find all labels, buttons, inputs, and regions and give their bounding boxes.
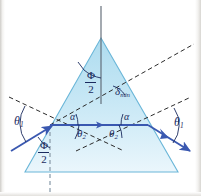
figure-canvas: θ1 θ1 α α θ2 θ2 δmin Φ 2 Φ 2 bbox=[0, 0, 201, 196]
page-edge-left bbox=[0, 0, 5, 196]
theta1-right-label: θ1 bbox=[174, 116, 183, 130]
prism-diagram-svg bbox=[0, 0, 201, 196]
theta1-left-label: θ1 bbox=[14, 115, 23, 129]
alpha-right-label: α bbox=[124, 112, 129, 122]
phi-top-tick bbox=[78, 62, 84, 70]
delta-min-label: δmin bbox=[115, 86, 130, 99]
phi-over-2-bottom-label: Φ 2 bbox=[38, 140, 50, 165]
page-edge-right bbox=[195, 0, 201, 196]
theta2-right-label: θ2 bbox=[109, 128, 118, 141]
alpha-left-label: α bbox=[70, 112, 75, 122]
phi-over-2-top-label: Φ 2 bbox=[85, 70, 97, 95]
page-edge-bottom bbox=[0, 192, 201, 196]
theta2-left-label: θ2 bbox=[77, 128, 86, 141]
